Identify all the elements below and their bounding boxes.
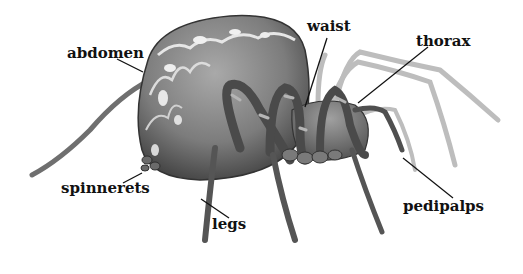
label-waist: waist [307, 19, 351, 34]
label-legs: legs [212, 217, 246, 232]
spider-diagram: abdomen waist thorax spinnerets legs ped… [0, 0, 523, 274]
label-pedipalps: pedipalps [403, 199, 484, 214]
label-abdomen: abdomen [67, 46, 144, 61]
label-thorax: thorax [416, 34, 470, 49]
rear-leg [32, 80, 150, 175]
pedipalps-leader-line [403, 158, 453, 198]
label-spinnerets: spinnerets [61, 181, 150, 196]
